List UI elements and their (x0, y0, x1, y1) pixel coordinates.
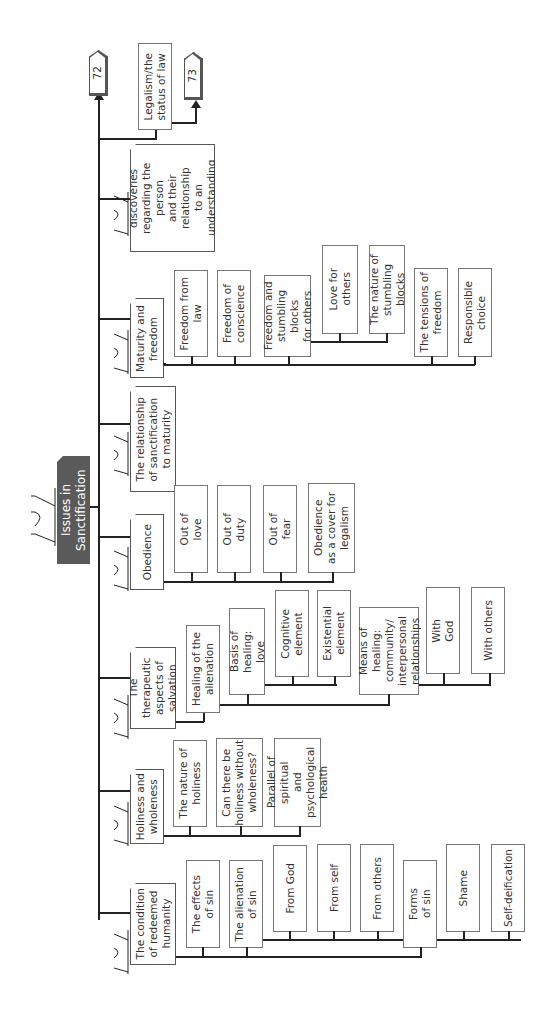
connector (189, 826, 191, 836)
continuation-73-label: 73 (186, 69, 199, 82)
condition-bus (176, 956, 422, 958)
connector (176, 721, 204, 723)
node-from-god[interactable]: From God (273, 845, 307, 932)
connector (333, 931, 335, 940)
connector (203, 712, 205, 722)
church-icon (25, 486, 57, 548)
arrow-up-73 (191, 100, 201, 108)
continuation-72-inner: 72 (90, 52, 105, 93)
node-shame[interactable]: Shame (446, 844, 480, 932)
connector (334, 676, 336, 685)
connector (98, 318, 130, 320)
maturity-bus-horizontal (164, 364, 475, 366)
root-title: Issues in Sanctification (59, 456, 89, 564)
root-node: Issues in Sanctification (57, 456, 90, 564)
church-icon (110, 190, 130, 238)
obedience-bus (164, 581, 334, 583)
node-maturity-freedom[interactable]: Maturity and freedom (130, 298, 164, 378)
node-nature-of-holiness[interactable]: The nature of holiness (173, 740, 207, 827)
connector (247, 694, 249, 705)
node-tensions-of-freedom[interactable]: The tensions of freedom (414, 268, 448, 357)
node-out-of-love[interactable]: Out of love (174, 485, 208, 573)
connector (386, 333, 388, 342)
node-obedience-cover-legalism[interactable]: Obedience as a cover for legalism (308, 483, 355, 573)
holiness-bus (164, 835, 301, 837)
church-icon (110, 430, 130, 478)
node-obedience[interactable]: Obedience (130, 514, 164, 590)
continuation-72-label: 72 (91, 66, 104, 79)
node-legalism[interactable]: Legalism/the status of law (138, 43, 172, 130)
connector (172, 122, 197, 124)
node-holiness-wholeness[interactable]: Holiness and wholeness (130, 769, 164, 844)
node-relationship-maturity[interactable]: The relationship of sanctification to ma… (130, 386, 176, 492)
connector (98, 677, 130, 679)
church-icon (110, 545, 130, 593)
connector (280, 572, 282, 582)
connector (420, 947, 422, 957)
node-existential-element[interactable]: Existential element (317, 590, 351, 677)
node-with-god[interactable]: With God (426, 587, 460, 674)
connector (474, 356, 476, 365)
connector (246, 947, 248, 957)
connector (98, 423, 130, 425)
node-self-deification[interactable]: Self-deification (491, 844, 525, 932)
connector (240, 826, 242, 836)
node-from-self[interactable]: From self (317, 844, 351, 932)
connector (489, 673, 491, 685)
node-freedom-from-law[interactable]: Freedom from law (174, 270, 208, 357)
node-out-of-fear[interactable]: Out of fear (263, 485, 297, 573)
connector (289, 931, 291, 940)
connector (98, 912, 130, 914)
connector (431, 356, 433, 365)
connector (332, 572, 334, 582)
connector (508, 931, 510, 940)
node-freedom-stumbling-blocks[interactable]: Freedom and stumbling blocks for others (264, 275, 311, 357)
node-out-of-duty[interactable]: Out of duty (217, 485, 251, 573)
church-icon (110, 328, 130, 376)
connector (98, 790, 130, 792)
node-condition-redeemed-humanity[interactable]: The condition of redeemed humanity (130, 883, 176, 965)
connector (191, 356, 193, 365)
node-freedom-of-conscience[interactable]: Freedom of conscience (217, 270, 251, 357)
node-healing-alienation[interactable]: Healing of the alienation (186, 625, 220, 713)
connector (98, 138, 156, 140)
church-icon (110, 800, 130, 848)
main-spine (98, 95, 100, 920)
connector (234, 356, 236, 365)
connector (265, 684, 337, 686)
connector (388, 694, 390, 705)
connector (234, 572, 236, 582)
connector (202, 947, 204, 957)
church-icon (110, 693, 130, 741)
node-cognitive-element[interactable]: Cognitive element (275, 590, 309, 677)
connector (463, 931, 465, 940)
church-icon (110, 928, 130, 976)
node-with-others[interactable]: With others (471, 587, 505, 674)
node-nature-stumbling-blocks[interactable]: The nature of stumbling blocks (369, 245, 405, 334)
node-therapeutic-aspects[interactable]: The therapeutic aspects of salvation (130, 647, 176, 729)
healing-bus (220, 704, 390, 706)
node-basis-of-healing[interactable]: Basis of healing: love (229, 608, 265, 695)
node-from-others[interactable]: From others (360, 844, 394, 932)
node-holiness-without-wholeness[interactable]: Can there be holiness without wholeness? (216, 738, 263, 827)
node-responsible-choice[interactable]: Responsible choice (458, 268, 492, 357)
node-alienation-of-sin[interactable]: The alienation of sin (229, 860, 263, 948)
connector (191, 572, 193, 582)
node-means-of-healing[interactable]: Means of healing: community/ interperson… (359, 607, 419, 695)
node-parallel-spiritual-psychological[interactable]: Parallel of spiritual and psychological … (274, 738, 321, 827)
connector (292, 676, 294, 685)
root-connector (90, 506, 98, 508)
connector (288, 356, 290, 365)
node-psychological-discoveries[interactable]: Psychological discoveries regarding the … (130, 144, 215, 252)
connector (98, 536, 130, 538)
connector (443, 673, 445, 685)
connector (311, 341, 388, 343)
node-effects-of-sin[interactable]: The effects of sin (186, 860, 220, 948)
node-forms-of-sin[interactable]: Forms of sin (403, 860, 437, 948)
connector (377, 931, 379, 940)
connector (339, 333, 341, 342)
connector (299, 826, 301, 836)
connector (419, 684, 491, 686)
continuation-73-inner: 73 (185, 54, 200, 97)
node-love-for-others[interactable]: Love for others (322, 245, 358, 334)
